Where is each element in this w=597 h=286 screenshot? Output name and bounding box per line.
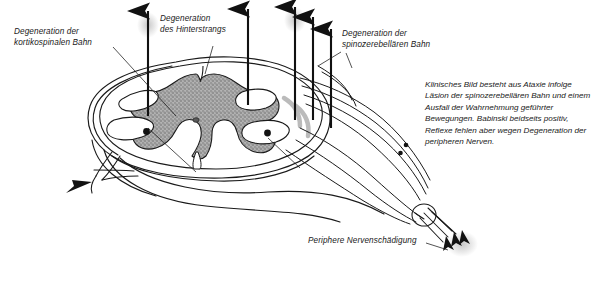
label-spinocerebellar-degeneration: Degeneration der spinozerebellären Bahn: [342, 29, 430, 50]
label-peripheral-nerve-damage: Periphere Nervenschädigung: [308, 236, 417, 247]
central-canal: [193, 118, 199, 123]
leader-spinocerebellar-b: [346, 53, 352, 68]
leader-spinocerebellar-a: [318, 52, 341, 66]
ventral-root-arrow-left: [66, 180, 92, 193]
label-posterior-column-degeneration: Degeneration des Hinterstrangs: [160, 14, 226, 35]
clinical-note-text: Klinisches Bild besteht aus Ataxie infol…: [425, 79, 591, 147]
label-corticospinal-degeneration: Degeneration der kortikospinalen Bahn: [14, 27, 92, 48]
